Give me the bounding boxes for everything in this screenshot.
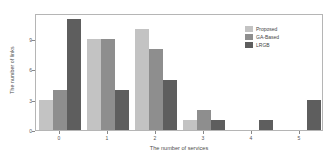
x-tick-mark bbox=[155, 131, 156, 134]
bar-proposed bbox=[183, 120, 197, 130]
legend-item: LRGB bbox=[245, 42, 279, 48]
bar-ga-based bbox=[197, 110, 211, 130]
legend-label: GA-Based bbox=[256, 34, 279, 40]
bar-group bbox=[276, 15, 324, 130]
y-axis-title-text: The number of links bbox=[9, 46, 15, 93]
bar-group bbox=[132, 15, 180, 130]
x-tick-label: 2 bbox=[145, 135, 165, 141]
legend-swatch-icon bbox=[245, 34, 253, 40]
bar-lrgb bbox=[67, 19, 81, 130]
bar-proposed bbox=[135, 29, 149, 130]
x-tick-mark bbox=[203, 131, 204, 134]
y-tick-label: 0 bbox=[20, 128, 32, 134]
chart-legend: ProposedGA-BasedLRGB bbox=[245, 26, 279, 48]
bar-lrgb bbox=[211, 120, 225, 130]
y-tick-label: 9 bbox=[20, 37, 32, 43]
plot-area bbox=[35, 14, 323, 131]
x-tick-label: 0 bbox=[49, 135, 69, 141]
bar-lrgb bbox=[307, 100, 321, 130]
x-tick-label: 1 bbox=[97, 135, 117, 141]
bar-ga-based bbox=[53, 90, 67, 130]
bar-ga-based bbox=[149, 49, 163, 130]
x-tick-mark bbox=[251, 131, 252, 134]
legend-item: GA-Based bbox=[245, 34, 279, 40]
legend-item: Proposed bbox=[245, 26, 279, 32]
x-axis-ticks: 012345 bbox=[35, 131, 323, 143]
bar-ga-based bbox=[101, 39, 115, 130]
x-tick-label: 5 bbox=[289, 135, 309, 141]
y-tick-label: 3 bbox=[20, 98, 32, 104]
legend-swatch-icon bbox=[245, 26, 253, 32]
x-tick-mark bbox=[107, 131, 108, 134]
x-tick-label: 3 bbox=[193, 135, 213, 141]
x-axis-title: The number of services bbox=[35, 145, 323, 151]
bar-proposed bbox=[87, 39, 101, 130]
bar-proposed bbox=[39, 100, 53, 130]
x-tick-mark bbox=[299, 131, 300, 134]
bar-lrgb bbox=[115, 90, 129, 130]
x-tick-mark bbox=[59, 131, 60, 134]
x-tick-label: 4 bbox=[241, 135, 261, 141]
bar-chart-figure: The number of links 0369 012345 The numb… bbox=[0, 0, 334, 167]
bar-lrgb bbox=[163, 80, 177, 130]
bar-group bbox=[84, 15, 132, 130]
y-axis-ticks: 0369 bbox=[18, 0, 32, 167]
bar-groups bbox=[36, 15, 322, 130]
bar-group bbox=[36, 15, 84, 130]
legend-swatch-icon bbox=[245, 42, 253, 48]
legend-label: LRGB bbox=[256, 42, 270, 48]
bar-lrgb bbox=[259, 120, 273, 130]
y-tick-label: 6 bbox=[20, 67, 32, 73]
legend-label: Proposed bbox=[256, 26, 277, 32]
bar-group bbox=[180, 15, 228, 130]
